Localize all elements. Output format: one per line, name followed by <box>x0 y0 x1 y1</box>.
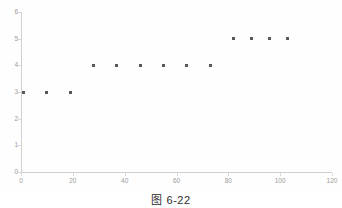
y-tick-label: 6 <box>4 8 18 16</box>
x-tick-label: 60 <box>165 177 189 185</box>
y-tick-label: 0 <box>4 168 18 176</box>
x-tick-mark <box>125 173 126 176</box>
data-point <box>250 37 253 40</box>
y-tick-label: 3 <box>4 88 18 96</box>
figure-caption: 图 6-22 <box>0 193 342 208</box>
y-tick-label: 2 <box>4 115 18 123</box>
data-point <box>286 37 289 40</box>
data-point <box>92 64 95 67</box>
x-tick-label: 100 <box>268 177 292 185</box>
x-tick-label: 0 <box>9 177 33 185</box>
y-tick-mark <box>18 119 21 120</box>
figure-container: 0123456 020406080100120 图 6-22 <box>0 0 342 208</box>
data-point <box>162 64 165 67</box>
x-tick-mark <box>332 173 333 176</box>
data-point <box>185 64 188 67</box>
scatter-plot: 0123456 020406080100120 <box>0 0 342 190</box>
x-tick-label: 120 <box>320 177 342 185</box>
data-point <box>22 91 25 94</box>
x-tick-mark <box>21 173 22 176</box>
y-tick-label: 4 <box>4 61 18 69</box>
x-tick-label: 80 <box>216 177 240 185</box>
y-tick-label: 1 <box>4 141 18 149</box>
x-tick-mark <box>228 173 229 176</box>
y-tick-mark <box>18 65 21 66</box>
data-point <box>69 91 72 94</box>
x-tick-mark <box>177 173 178 176</box>
y-tick-mark <box>18 145 21 146</box>
data-point <box>115 64 118 67</box>
y-tick-mark <box>18 12 21 13</box>
data-point <box>45 91 48 94</box>
data-point <box>268 37 271 40</box>
y-tick-label: 5 <box>4 35 18 43</box>
y-tick-mark <box>18 92 21 93</box>
data-point <box>139 64 142 67</box>
x-tick-label: 20 <box>61 177 85 185</box>
x-tick-mark <box>73 173 74 176</box>
x-tick-mark <box>280 173 281 176</box>
y-tick-mark <box>18 39 21 40</box>
data-point <box>209 64 212 67</box>
data-point <box>232 37 235 40</box>
x-tick-label: 40 <box>113 177 137 185</box>
